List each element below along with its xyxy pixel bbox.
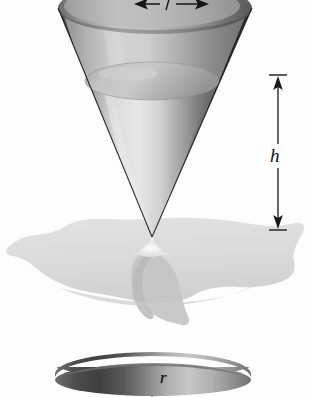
upper-cone (58, 0, 252, 237)
lower-cone-rim (55, 364, 251, 396)
cone-liquid-body (85, 81, 219, 237)
radius-label-r-bottom: r (160, 369, 167, 386)
puddle-blob (6, 218, 304, 325)
cone-figure: h r Conical funnel draining onto a puddl… (0, 0, 311, 397)
lower-cone-partial (55, 352, 251, 397)
height-label-h: h (270, 146, 280, 165)
figure-artwork (0, 0, 311, 397)
